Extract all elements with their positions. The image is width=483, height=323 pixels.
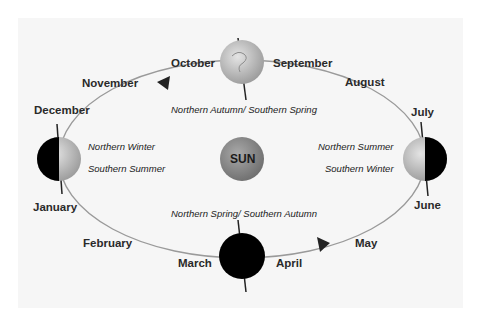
month-may: May [355, 237, 377, 249]
month-august: August [345, 76, 385, 88]
month-july: July [411, 106, 434, 118]
month-march: March [178, 257, 212, 269]
month-november: November [82, 77, 138, 89]
month-february: February [83, 237, 132, 249]
season-bottom-label: Northern Spring/ Southern Autumn [171, 208, 317, 219]
season-left-north-label: Northern Winter [88, 141, 155, 152]
month-december: December [34, 104, 90, 116]
month-january: January [33, 201, 77, 213]
season-left-south-label: Southern Summer [88, 163, 165, 174]
orbit-arrow-bottom-icon [317, 237, 330, 252]
month-april: April [276, 257, 302, 269]
earth-top-icon [220, 38, 264, 100]
earth-bottom-icon [219, 220, 265, 292]
month-september: September [273, 57, 332, 69]
month-june: June [414, 199, 441, 211]
earth-right-icon [403, 122, 447, 196]
season-top-label: Northern Autumn/ Southern Spring [171, 104, 317, 115]
season-right-north-label: Northern Summer [318, 141, 394, 152]
sun-label: SUN [230, 152, 255, 166]
orbit-arrow-top-icon [157, 76, 170, 90]
earth-left-icon [37, 124, 81, 194]
season-right-south-label: Southern Winter [325, 163, 394, 174]
month-october: October [171, 57, 215, 69]
